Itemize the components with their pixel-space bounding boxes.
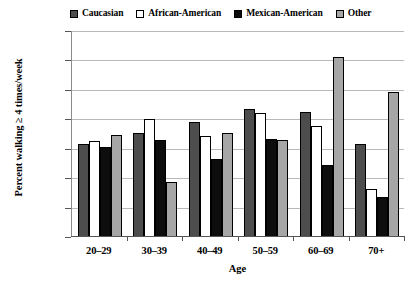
- bar-group: [128, 31, 184, 237]
- bar-chart-figure: Caucasian African-American Mexican-Ameri…: [0, 0, 414, 286]
- bar-caucasian[interactable]: [78, 144, 89, 237]
- bar-caucasian[interactable]: [189, 122, 200, 237]
- bar-other[interactable]: [166, 182, 177, 237]
- bar-caucasian[interactable]: [300, 112, 311, 237]
- legend-swatch-caucasian: [70, 10, 78, 18]
- bar-african-american[interactable]: [366, 189, 377, 237]
- bar-group: [239, 31, 295, 237]
- legend-entry-mexican-american: Mexican-American: [234, 9, 322, 19]
- x-tick-mark: [127, 236, 128, 241]
- legend-entry-other: Other: [336, 9, 372, 19]
- x-tick-mark: [182, 236, 183, 241]
- bar-other[interactable]: [333, 57, 344, 237]
- bar-mexican-american[interactable]: [322, 165, 333, 237]
- bar-mexican-american[interactable]: [377, 197, 388, 237]
- x-tick-mark: [293, 236, 294, 241]
- bar-mexican-american[interactable]: [155, 140, 166, 237]
- legend-label-african-american: African-American: [148, 9, 221, 19]
- legend-entry-african-american: African-American: [136, 9, 221, 19]
- bar-caucasian[interactable]: [133, 133, 144, 237]
- legend-swatch-mexican-american: [234, 10, 242, 18]
- bar-group: [72, 31, 128, 237]
- legend-swatch-other: [336, 10, 344, 18]
- bar-group: [294, 31, 350, 237]
- bar-african-american[interactable]: [200, 136, 211, 237]
- bar-other[interactable]: [111, 135, 122, 237]
- bar-african-american[interactable]: [89, 141, 100, 237]
- bar-african-american[interactable]: [311, 126, 322, 237]
- x-tick-mark: [404, 236, 405, 241]
- legend-entry-caucasian: Caucasian: [70, 9, 123, 19]
- legend-label-mexican-american: Mexican-American: [246, 9, 322, 19]
- bar-other[interactable]: [277, 140, 288, 237]
- x-tick-label: 70+: [341, 245, 411, 256]
- y-tick-mark: [65, 237, 71, 238]
- bar-other[interactable]: [222, 133, 233, 237]
- legend-label-caucasian: Caucasian: [82, 9, 123, 19]
- bar-african-american[interactable]: [144, 119, 155, 237]
- bar-other[interactable]: [388, 92, 399, 237]
- x-tick-mark: [349, 236, 350, 241]
- y-axis-title: Percent walking ≥ 4 times/week: [13, 28, 24, 228]
- bar-mexican-american[interactable]: [100, 147, 111, 237]
- bar-african-american[interactable]: [255, 113, 266, 237]
- bar-mexican-american[interactable]: [266, 139, 277, 237]
- chart-legend: Caucasian African-American Mexican-Ameri…: [70, 6, 406, 22]
- legend-label-other: Other: [348, 9, 372, 19]
- bar-group: [350, 31, 406, 237]
- x-tick-mark: [238, 236, 239, 241]
- legend-swatch-african-american: [136, 10, 144, 18]
- bar-group: [183, 31, 239, 237]
- bar-caucasian[interactable]: [244, 109, 255, 237]
- bar-mexican-american[interactable]: [211, 159, 222, 237]
- bar-caucasian[interactable]: [355, 144, 366, 237]
- plot-area: [71, 31, 404, 237]
- x-axis-title: Age: [71, 263, 404, 274]
